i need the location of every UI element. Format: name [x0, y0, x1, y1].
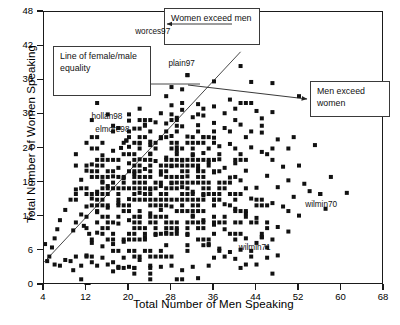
data-point: [63, 208, 67, 212]
data-point: [212, 169, 216, 173]
data-point: [260, 232, 264, 236]
data-point: [180, 87, 184, 91]
data-point: [228, 98, 232, 102]
data-point: [244, 158, 248, 162]
data-point: [180, 124, 184, 128]
data-point: [116, 166, 120, 170]
data-point: [175, 152, 179, 156]
data-point: [201, 114, 205, 118]
data-point: [159, 192, 163, 196]
data-point: [143, 198, 147, 202]
data-point: [249, 101, 253, 105]
data-point: [87, 283, 91, 285]
data-point: [122, 256, 126, 260]
data-point: [260, 198, 264, 202]
data-point: [201, 220, 205, 224]
data-point: [69, 259, 73, 263]
data-point: [286, 178, 290, 182]
data-point: [207, 238, 211, 242]
data-point: [74, 192, 78, 196]
data-point: [85, 215, 89, 219]
data-point: [175, 181, 179, 185]
data-point: [74, 152, 78, 156]
data-point: [185, 169, 189, 173]
data-point: [138, 186, 142, 190]
data-point: [127, 169, 131, 173]
data-point: [132, 164, 136, 168]
data-point: [106, 215, 110, 219]
data-point: [106, 192, 110, 196]
data-point: [175, 158, 179, 162]
data-point: [180, 147, 184, 151]
data-point: [286, 147, 290, 151]
data-point: [79, 264, 83, 268]
data-point: [201, 226, 205, 230]
data-point: [201, 198, 205, 202]
data-point: [90, 260, 94, 264]
data-point: [95, 203, 99, 207]
data-point: [159, 232, 163, 236]
data-point: [116, 203, 120, 207]
data-point: [244, 236, 248, 240]
data-point: [191, 209, 195, 213]
data-point: [164, 232, 168, 236]
data-point: [170, 118, 174, 122]
data-point: [132, 226, 136, 230]
data-point: [90, 255, 94, 259]
data-point: [148, 277, 152, 281]
data-point: [207, 158, 211, 162]
data-point: [106, 226, 110, 230]
data-point: [100, 256, 104, 260]
data-point: [207, 264, 211, 268]
data-point: [79, 178, 83, 182]
data-point: [249, 145, 253, 149]
data-point: [175, 209, 179, 213]
data-point: [159, 169, 163, 173]
data-point: [164, 169, 168, 173]
data-point: [170, 141, 174, 145]
data-point: [132, 266, 136, 270]
data-point: [154, 147, 158, 151]
data-point: [228, 203, 232, 207]
data-point: [228, 250, 232, 254]
data-point: [270, 158, 274, 162]
data-point: [196, 169, 200, 173]
data-point: [74, 255, 78, 259]
data-point: [100, 175, 104, 179]
data-point: [164, 243, 168, 247]
data-point: [185, 192, 189, 196]
data-point: [74, 220, 78, 224]
data-point: [116, 198, 120, 202]
data-point: [154, 198, 158, 202]
data-point: [116, 186, 120, 190]
data-point: [154, 203, 158, 207]
data-point: [148, 129, 152, 133]
data-point: [244, 263, 248, 267]
data-point: [111, 149, 115, 153]
data-point: [154, 141, 158, 145]
data-point: [239, 123, 243, 127]
data-point: [276, 185, 280, 189]
data-point: [95, 231, 99, 235]
data-point: [164, 215, 168, 219]
data-point: [196, 226, 200, 230]
data-point: [106, 203, 110, 207]
data-point: [185, 226, 189, 230]
data-point: [63, 258, 67, 262]
data-point: [116, 215, 120, 219]
data-point: [175, 175, 179, 179]
data-point: [249, 197, 253, 201]
data-point: [217, 198, 221, 202]
data-point: [111, 249, 115, 253]
data-point: [185, 158, 189, 162]
data-point: [212, 79, 216, 83]
data-point: [127, 197, 131, 201]
data-point: [148, 192, 152, 196]
data-point: [127, 203, 131, 207]
data-point: [170, 255, 174, 259]
data-point: [228, 192, 232, 196]
data-point: [185, 181, 189, 185]
data-point: [175, 124, 179, 128]
data-point: [127, 112, 131, 116]
data-point: [100, 203, 104, 207]
